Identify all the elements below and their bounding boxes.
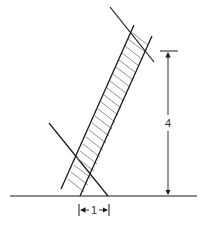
height-label: 4 [165, 117, 171, 129]
upper-reference-line [110, 7, 154, 62]
ladder-left-rail [61, 25, 134, 189]
ladder-diagram: 4 1 [0, 0, 206, 225]
base-label: 1 [91, 204, 97, 216]
base-dimension: 1 [79, 204, 109, 216]
ladder-rungs [68, 32, 148, 192]
ladder-right-rail [80, 36, 152, 196]
height-dimension: 4 [160, 51, 178, 194]
